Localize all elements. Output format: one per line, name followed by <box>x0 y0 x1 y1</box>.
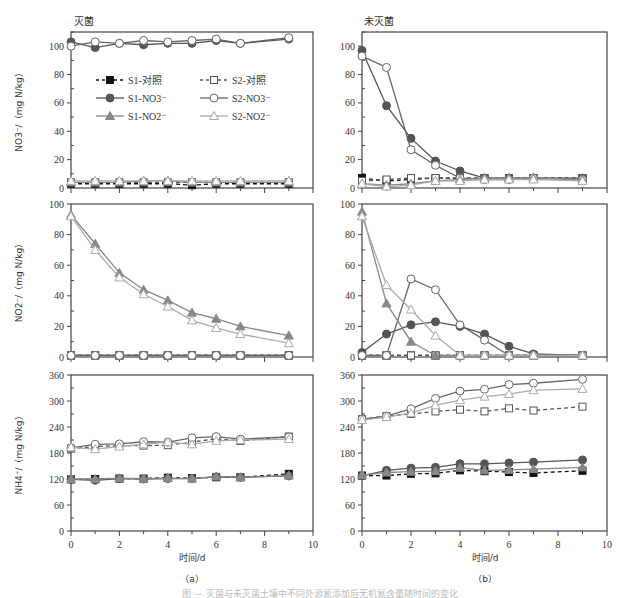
legend-item: S2-NO2⁻ <box>200 111 271 122</box>
data-point <box>115 351 123 359</box>
series-3 <box>358 46 587 182</box>
data-point <box>382 281 391 289</box>
data-point <box>456 321 464 329</box>
data-point <box>236 39 244 47</box>
data-point <box>358 351 366 359</box>
y-tick-label: 60 <box>345 500 355 511</box>
legend-marker-icon <box>211 77 218 84</box>
data-point <box>407 146 415 154</box>
y-tick-label: 120 <box>49 474 64 485</box>
data-point <box>505 342 513 350</box>
data-point <box>407 275 415 283</box>
figure-caption: 图 — 灭菌与未灭菌土壤中不同外源氮添加后无机氮含量随时间的变化 <box>182 588 458 598</box>
series-line <box>362 470 583 475</box>
data-point <box>506 405 513 412</box>
series-4 <box>358 275 587 360</box>
x-tick-label: 4 <box>165 539 170 550</box>
x-tick-label: 6 <box>214 539 219 550</box>
legend-label: S2-NO3⁻ <box>232 93 271 104</box>
y-tick-label: 60 <box>54 97 64 108</box>
y-tick-label: 240 <box>340 422 355 433</box>
data-point <box>408 352 415 359</box>
data-point <box>383 330 391 338</box>
y-tick-label: 0 <box>350 183 355 194</box>
figure-canvas: 灭菌 未灭菌 020406080100NO3⁻/（mg N/kg）0204060… <box>0 0 622 598</box>
series-5 <box>358 463 588 479</box>
series-line <box>362 179 583 186</box>
series-6 <box>67 212 294 347</box>
series-line <box>362 216 583 355</box>
y-tick-label: 180 <box>49 448 64 459</box>
data-point <box>67 42 75 50</box>
data-point <box>285 351 293 359</box>
data-point <box>188 351 196 359</box>
x-tick-label: 6 <box>507 539 512 550</box>
data-point <box>456 387 464 395</box>
y-tick-label: 0 <box>59 526 64 537</box>
series-2 <box>359 403 587 423</box>
data-point <box>383 351 391 359</box>
data-point <box>407 337 416 345</box>
data-point <box>115 39 123 47</box>
panel-b-middle: 020406080100 <box>340 199 607 363</box>
series-line <box>362 50 583 178</box>
data-point <box>212 35 220 43</box>
data-point <box>579 403 586 410</box>
data-point <box>481 336 489 344</box>
data-point <box>457 406 464 413</box>
x-tick-label: 4 <box>458 539 463 550</box>
data-point <box>432 161 440 169</box>
data-point <box>579 375 587 383</box>
y-axis-title: NO3⁻/（mg N/kg） <box>14 68 24 151</box>
y-axis-title: NH4⁺/（mg N/kg） <box>14 411 24 494</box>
data-point <box>188 316 197 324</box>
panel-a-title: 灭菌 <box>74 16 94 27</box>
x-tick-label: 10 <box>308 539 318 550</box>
data-point <box>91 38 99 46</box>
plots-group: 020406080100NO3⁻/（mg N/kg）020406080100NO… <box>14 32 612 550</box>
y-tick-label: 300 <box>49 396 64 407</box>
series-line <box>362 178 583 185</box>
y-tick-label: 20 <box>345 321 355 332</box>
series-4 <box>67 351 293 359</box>
y-tick-label: 60 <box>54 260 64 271</box>
x-axis-title-b: 时间/d <box>472 552 499 563</box>
series-5 <box>67 471 294 482</box>
data-point <box>140 37 148 45</box>
x-tick-label: 10 <box>602 539 612 550</box>
y-tick-label: 0 <box>59 183 64 194</box>
legend-item: S1-对照 <box>96 74 162 86</box>
series-line <box>362 379 583 419</box>
x-tick-label: 0 <box>360 539 365 550</box>
data-point <box>236 351 244 359</box>
data-point <box>530 407 537 414</box>
series-3 <box>67 35 293 52</box>
legend-label: S2-对照 <box>232 74 266 86</box>
sub-label-a: （a） <box>180 574 204 584</box>
data-point <box>67 351 75 359</box>
series-line <box>71 437 289 448</box>
series-4 <box>358 52 587 183</box>
x-tick-label: 2 <box>117 539 122 550</box>
y-tick-label: 60 <box>54 500 64 511</box>
y-tick-label: 120 <box>340 474 355 485</box>
y-tick-label: 80 <box>54 229 64 240</box>
y-axis-title: NO2⁻/（mg N/kg） <box>14 239 24 322</box>
legend-item: S2-NO3⁻ <box>200 93 271 104</box>
legend: S1-对照S2-对照S1-NO3⁻S2-NO3⁻S1-NO2⁻S2-NO2⁻ <box>96 74 271 122</box>
panel-a-middle: 020406080100NO2⁻/（mg N/kg） <box>14 199 313 363</box>
data-point <box>164 351 172 359</box>
y-tick-label: 40 <box>345 126 355 137</box>
legend-marker-icon <box>107 77 114 84</box>
data-point <box>285 34 293 42</box>
series-line <box>362 389 583 420</box>
y-tick-label: 100 <box>340 41 355 52</box>
y-tick-label: 240 <box>49 422 64 433</box>
data-point <box>505 381 513 389</box>
y-tick-label: 20 <box>54 321 64 332</box>
series-5 <box>358 207 588 359</box>
series-line <box>71 216 289 343</box>
data-point <box>383 63 391 71</box>
panel-b-title: 未灭菌 <box>364 16 394 27</box>
data-point <box>140 351 148 359</box>
